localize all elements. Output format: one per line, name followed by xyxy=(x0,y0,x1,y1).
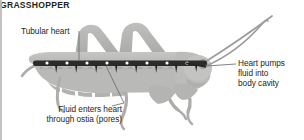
head-capsule xyxy=(184,55,212,81)
callout-fluid-enters-ostia: Fluid enters heart through ostia (pores) xyxy=(18,104,122,124)
callout-heart-pumps: Heart pumps fluid into body cavity xyxy=(238,58,285,89)
hindleg-tibia xyxy=(122,93,127,118)
midleg-tarsus xyxy=(178,110,186,119)
grasshopper-circulatory-figure: Tubular heart Heart pumps fluid into bod… xyxy=(0,0,304,140)
callout-tubular-heart: Tubular heart xyxy=(21,26,69,36)
foreleg-front-tarsus xyxy=(188,112,192,124)
cercus xyxy=(22,66,34,76)
left-edge-rule xyxy=(0,0,2,140)
heart-tube xyxy=(33,61,207,66)
